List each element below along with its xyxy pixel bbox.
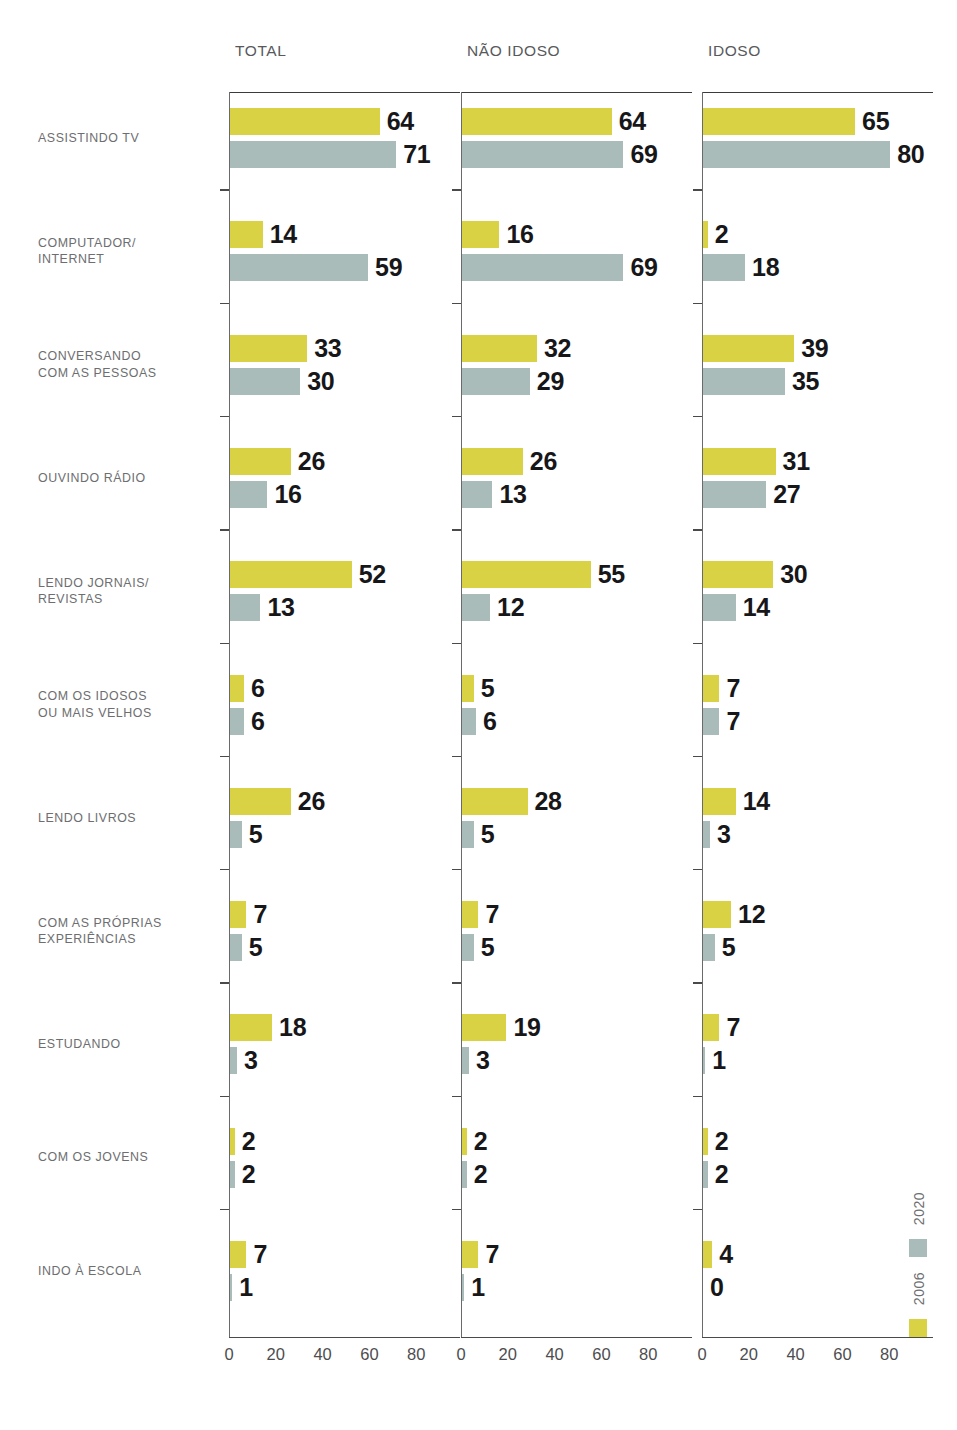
bar-2020 <box>703 1047 705 1074</box>
axis-tick <box>452 303 461 304</box>
category-label-line: EXPERIÊNCIAS <box>38 931 223 948</box>
panel-top-rule <box>702 92 933 93</box>
axis-tick <box>693 416 702 417</box>
x-tick-label: 60 <box>592 1345 610 1364</box>
category-label: INDO À ESCOLA <box>38 1263 223 1280</box>
category-label-line: COM OS JOVENS <box>38 1149 223 1166</box>
category-label: CONVERSANDOCOM AS PESSOAS <box>38 348 223 381</box>
category-label-line: INDO À ESCOLA <box>38 1263 223 1280</box>
bar-2020 <box>230 934 242 961</box>
bar-2020 <box>462 1161 467 1188</box>
legend-label: 2006 <box>911 1272 927 1305</box>
bar-2020 <box>462 1274 464 1301</box>
bar-value-label: 3 <box>717 822 731 847</box>
bar-2020 <box>230 254 368 281</box>
bar-value-label: 2 <box>715 222 729 247</box>
x-tick-label: 60 <box>360 1345 378 1364</box>
bar-value-label: 16 <box>506 222 533 247</box>
bar-value-label: 7 <box>726 709 740 734</box>
bar-value-label: 27 <box>773 482 800 507</box>
bar-2020 <box>703 821 710 848</box>
axis-tick <box>452 189 461 190</box>
bar-value-label: 33 <box>314 336 341 361</box>
bar-2006 <box>230 561 352 588</box>
panel-title-idoso: IDOSO <box>708 42 761 60</box>
legend-label: 2020 <box>911 1192 927 1225</box>
bar-value-label: 13 <box>267 595 294 620</box>
category-label: ASSISTINDO TV <box>38 130 223 147</box>
bar-2020 <box>703 254 745 281</box>
bar-2020 <box>230 1161 235 1188</box>
category-label: COM OS IDOSOSOU MAIS VELHOS <box>38 688 223 721</box>
bar-value-label: 2 <box>474 1162 488 1187</box>
bar-value-label: 2 <box>242 1162 256 1187</box>
bar-2020 <box>462 934 474 961</box>
bar-2020 <box>462 708 476 735</box>
bar-2020 <box>230 1274 232 1301</box>
axis-tick <box>220 416 229 417</box>
bar-2006 <box>462 1014 506 1041</box>
category-label-line: ASSISTINDO TV <box>38 130 223 147</box>
x-tick-label: 60 <box>833 1345 851 1364</box>
x-tick-label: 80 <box>880 1345 898 1364</box>
bar-2006 <box>462 901 478 928</box>
bar-2020 <box>703 934 715 961</box>
bar-value-label: 0 <box>710 1275 724 1300</box>
axis-tick <box>452 529 461 530</box>
category-label-line: COM AS PRÓPRIAS <box>38 915 223 932</box>
bar-value-label: 13 <box>499 482 526 507</box>
x-tick-label: 80 <box>407 1345 425 1364</box>
panel-baseline <box>461 1337 692 1338</box>
bar-2020 <box>230 368 300 395</box>
bar-2006 <box>230 108 380 135</box>
axis-tick <box>220 1209 229 1210</box>
axis-tick <box>693 756 702 757</box>
bar-2020 <box>462 821 474 848</box>
axis-tick <box>220 1096 229 1097</box>
bar-value-label: 69 <box>630 142 657 167</box>
axis-tick <box>452 869 461 870</box>
panel-title-nao-idoso: NÃO IDOSO <box>467 42 560 60</box>
panel-top-rule <box>461 92 692 93</box>
x-tick-label: 20 <box>740 1345 758 1364</box>
bar-value-label: 2 <box>242 1129 256 1154</box>
bar-value-label: 7 <box>485 902 499 927</box>
bar-2020 <box>703 594 736 621</box>
bar-2006 <box>230 1014 272 1041</box>
bar-value-label: 31 <box>783 449 810 474</box>
axis-tick <box>452 756 461 757</box>
bar-2020 <box>703 141 890 168</box>
bar-2020 <box>462 254 623 281</box>
bar-2006 <box>230 221 263 248</box>
bar-value-label: 16 <box>274 482 301 507</box>
axis-tick <box>220 529 229 530</box>
category-label-line: OUVINDO RÁDIO <box>38 470 223 487</box>
bar-2006 <box>703 901 731 928</box>
bar-2020 <box>462 1047 469 1074</box>
bar-2020 <box>703 708 719 735</box>
category-label-line: COM OS IDOSOS <box>38 688 223 705</box>
axis-tick <box>220 982 229 983</box>
bar-2020 <box>703 368 785 395</box>
category-label: ESTUDANDO <box>38 1036 223 1053</box>
bar-value-label: 3 <box>476 1048 490 1073</box>
axis-tick <box>693 529 702 530</box>
bar-value-label: 64 <box>619 109 646 134</box>
chart-legend: 20202006 <box>889 1192 951 1332</box>
axis-tick <box>220 189 229 190</box>
bar-value-label: 19 <box>513 1015 540 1040</box>
bar-value-label: 26 <box>530 449 557 474</box>
axis-tick <box>220 756 229 757</box>
axis-tick <box>693 303 702 304</box>
bar-value-label: 14 <box>270 222 297 247</box>
bar-2020 <box>462 141 623 168</box>
bar-2006 <box>703 1241 712 1268</box>
bar-value-label: 5 <box>481 935 495 960</box>
bar-2020 <box>230 708 244 735</box>
bar-value-label: 32 <box>544 336 571 361</box>
panel-idoso: 6580218393531273014771431257122400204060… <box>702 92 933 1338</box>
axis-tick <box>452 1096 461 1097</box>
bar-2020 <box>462 594 490 621</box>
legend-swatch <box>909 1239 927 1257</box>
bar-value-label: 3 <box>244 1048 258 1073</box>
